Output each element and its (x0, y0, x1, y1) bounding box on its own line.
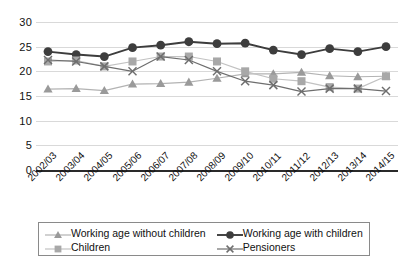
legend-label: Children (71, 242, 110, 253)
square-marker-icon (45, 241, 71, 253)
data-point (44, 57, 52, 65)
data-point (129, 57, 137, 65)
legend-item-children: Children (45, 241, 217, 253)
y-tick-label: 5 (2, 140, 32, 151)
data-point (184, 37, 193, 46)
plot-area (36, 22, 398, 170)
series-children (44, 53, 390, 93)
data-point (297, 68, 306, 76)
data-point (297, 50, 306, 59)
legend-item-working-age-with-children: Working age with children (217, 227, 363, 239)
data-point (298, 77, 306, 85)
x-axis-labels: 2002/032003/042004/052005/062006/072007/… (36, 172, 398, 222)
legend-label: Pensioners (243, 242, 296, 253)
chart-legend: Working age without children Working age… (38, 222, 370, 256)
data-point (269, 46, 278, 55)
data-point (353, 47, 362, 56)
triangle-marker-icon (45, 227, 71, 239)
legend-item-pensioners: Pensioners (217, 241, 363, 253)
legend-label: Working age with children (243, 228, 363, 239)
circle-marker-icon (217, 227, 243, 239)
data-point (213, 57, 221, 65)
x-marker-icon (217, 241, 243, 253)
y-tick-label: 30 (2, 17, 32, 28)
data-point (44, 47, 53, 56)
data-point (213, 39, 222, 48)
data-point (326, 83, 334, 91)
series-working-age-with-children (44, 37, 391, 61)
y-tick-label: 25 (2, 42, 32, 53)
data-point (128, 43, 137, 52)
data-point (241, 67, 249, 75)
y-axis: 30 25 20 15 10 5 0 (0, 22, 32, 170)
chart-container: 30 25 20 15 10 5 0 2002/032003/042004/05… (0, 0, 415, 263)
data-point (100, 52, 109, 61)
y-tick-label: 15 (2, 91, 32, 102)
series-plot (36, 22, 398, 170)
data-point (72, 84, 81, 92)
y-tick-label: 20 (2, 66, 32, 77)
data-point (382, 72, 390, 80)
data-point (156, 41, 165, 50)
legend-item-working-age-without-children: Working age without children (45, 227, 217, 239)
data-point (325, 44, 334, 53)
legend-row-1: Working age without children Working age… (45, 226, 363, 240)
data-point (241, 39, 250, 48)
data-point (382, 42, 391, 51)
y-tick-label: 10 (2, 116, 32, 127)
legend-label: Working age without children (71, 228, 206, 239)
legend-row-2: Children Pensioners (45, 240, 363, 254)
